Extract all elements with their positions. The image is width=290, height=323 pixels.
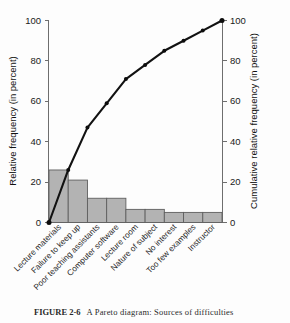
y-axis-right-tick-labels: 0 20 40 60 80 100	[230, 15, 246, 228]
bars-group	[49, 170, 222, 223]
y2-tick-label-60: 60	[230, 95, 241, 106]
y2-tick-label-40: 40	[230, 136, 241, 147]
figure-container: 0 20 40 60 80 100 0 20 40 60 80 100 Rela…	[0, 0, 290, 323]
y-tick-label-100: 100	[25, 15, 41, 26]
y-axis-left-ticks	[45, 21, 49, 223]
y2-tick-label-20: 20	[230, 176, 241, 187]
cumulative-point	[105, 101, 109, 105]
bar	[107, 198, 126, 222]
cumulative-point	[220, 18, 225, 23]
bar	[145, 209, 164, 222]
y2-tick-label-100: 100	[230, 15, 246, 26]
bar	[126, 209, 145, 222]
figure-caption-number: FIGURE 2-6	[34, 307, 81, 317]
cumulative-point	[143, 63, 147, 67]
y-tick-label-40: 40	[30, 136, 41, 147]
pareto-chart: 0 20 40 60 80 100 0 20 40 60 80 100 Rela…	[0, 0, 290, 323]
cumulative-point	[124, 77, 128, 81]
y-axis-left-tick-labels: 0 20 40 60 80 100	[25, 15, 41, 228]
cumulative-point	[66, 168, 70, 172]
bar	[68, 180, 87, 222]
cumulative-point	[47, 220, 52, 225]
bar	[184, 212, 203, 222]
bar	[87, 198, 106, 222]
y-axis-right-title: Cumulative relative frequency (in percen…	[248, 33, 259, 209]
x-axis-category-labels: Lecture materialsFailure to keep upPoor …	[12, 222, 217, 292]
cumulative-point	[201, 29, 205, 33]
cumulative-point	[182, 39, 186, 43]
bar	[203, 212, 222, 222]
cumulative-point	[85, 126, 89, 130]
y-axis-right-ticks	[223, 21, 227, 223]
figure-caption: FIGURE 2-6A Pareto diagram: Sources of d…	[0, 307, 290, 323]
y-axis-left-title: Relative frequency (in percent)	[7, 56, 18, 185]
y-tick-label-60: 60	[30, 95, 41, 106]
bar	[164, 212, 183, 222]
y2-tick-label-80: 80	[230, 55, 241, 66]
figure-caption-text: A Pareto diagram: Sources of difficultie…	[87, 307, 234, 317]
y-tick-label-80: 80	[30, 55, 41, 66]
y2-tick-label-0: 0	[230, 217, 235, 228]
y-tick-label-20: 20	[30, 176, 41, 187]
y-tick-label-0: 0	[36, 217, 41, 228]
cumulative-point	[162, 49, 166, 53]
